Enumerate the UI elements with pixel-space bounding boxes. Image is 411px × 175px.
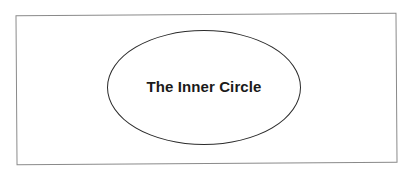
diagram-canvas: The Inner Circle bbox=[0, 0, 411, 175]
inner-circle-label-text: The Inner Circle bbox=[147, 78, 262, 95]
inner-circle-label: The Inner Circle bbox=[107, 30, 301, 145]
